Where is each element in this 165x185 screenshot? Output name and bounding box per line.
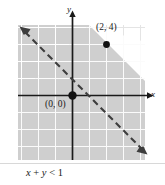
caption-plus: + bbox=[31, 167, 42, 178]
plot-canvas bbox=[0, 0, 165, 185]
point-marker-origin bbox=[68, 91, 76, 99]
caption-value: 1 bbox=[58, 167, 63, 178]
point-label-origin: (0, 0) bbox=[45, 100, 66, 110]
point-label-2-4: (2, 4) bbox=[96, 23, 117, 33]
x-axis-label: x bbox=[151, 90, 155, 99]
caption-relation: < bbox=[47, 167, 58, 178]
inequality-graph-figure: y x (2, 4) (0, 0) x + y < 1 bbox=[0, 0, 165, 185]
y-axis-label: y bbox=[67, 5, 71, 14]
point-marker-2-4 bbox=[103, 41, 110, 48]
figure-caption: x + y < 1 bbox=[26, 167, 63, 178]
